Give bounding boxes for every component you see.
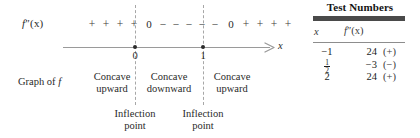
cell-value: 24 — [343, 46, 377, 57]
inflection-line1: Inflection — [166, 108, 240, 120]
cell-value: 24 — [343, 71, 377, 82]
sign-zero-at-1: 0 — [225, 16, 237, 32]
number-line-axis — [63, 47, 270, 48]
table-body: −1 24 (+) 1 2 −3 (−) 2 24 (+) — [313, 46, 405, 83]
table-row: 2 24 (+) — [313, 71, 405, 83]
sign-minus: − — [209, 16, 221, 32]
cell-x: 2 — [313, 71, 341, 82]
concavity-region-middle: Concave downward — [139, 71, 199, 95]
cell-x: −1 — [313, 46, 341, 57]
sign-plus: + — [100, 16, 112, 32]
sign-plus: + — [114, 16, 126, 32]
second-derivative-label: f″(x) — [22, 17, 43, 29]
concavity-line1: Concave — [139, 71, 199, 83]
inflection-line2: point — [166, 120, 240, 132]
test-numbers-table: Test Numbers x f″(x) −1 24 (+) 1 2 −3 (−… — [300, 0, 420, 100]
cell-sign: (+) — [383, 46, 405, 57]
cell-sign: (+) — [383, 71, 405, 82]
graph-of-f-label: Graph of f — [18, 76, 61, 87]
table-row: 1 2 −3 (−) — [313, 59, 405, 71]
inflection-point-label-1: Inflection point — [166, 108, 240, 132]
inflection-line1: Inflection — [98, 108, 172, 120]
concavity-line1: Concave — [207, 71, 257, 83]
concavity-region-right: Concave upward — [207, 71, 257, 95]
sign-row: + + + + 0 − − − − − 0 + + + + — [86, 16, 276, 32]
column-header-x: x — [314, 26, 319, 37]
sign-plus: + — [86, 16, 98, 32]
concavity-line2: downward — [139, 83, 199, 95]
sign-plus: + — [240, 16, 252, 32]
sign-minus: − — [157, 16, 169, 32]
fraction-numerator: 1 — [324, 59, 330, 67]
concavity-line2: upward — [207, 83, 257, 95]
cell-sign: (−) — [383, 59, 405, 70]
sign-plus: + — [128, 16, 140, 32]
sign-zero-at-0: 0 — [143, 16, 155, 32]
table-header-rule — [313, 42, 405, 43]
sign-plus: + — [282, 16, 294, 32]
concavity-sign-chart: f″(x) + + + + 0 − − − − − 0 + + + + x 0 … — [0, 0, 292, 138]
axis-label-x: x — [278, 40, 283, 51]
axis-arrow-icon — [264, 41, 276, 54]
table-header-bar — [313, 16, 405, 21]
sign-minus: − — [196, 16, 208, 32]
sign-plus: + — [254, 16, 266, 32]
sign-plus: + — [268, 16, 280, 32]
tick-label-0: 0 — [128, 50, 142, 61]
inflection-line2: point — [98, 120, 172, 132]
cell-value: −3 — [343, 59, 377, 70]
inflection-point-label-0: Inflection point — [98, 108, 172, 132]
tick-dot-1 — [201, 45, 205, 49]
table-title: Test Numbers — [313, 1, 407, 13]
concavity-line1: Concave — [89, 71, 135, 83]
sign-minus: − — [170, 16, 182, 32]
column-header-fpp: f″(x) — [344, 25, 364, 36]
concavity-line2: upward — [89, 83, 135, 95]
tick-dot-0 — [133, 45, 137, 49]
tick-label-1: 1 — [196, 50, 210, 61]
concavity-region-left: Concave upward — [89, 71, 135, 95]
sign-minus: − — [183, 16, 195, 32]
